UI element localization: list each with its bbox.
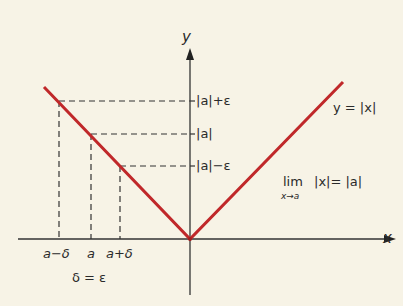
curve-label: y = |x| [333,100,376,115]
x-tick-label-left: a−δ [43,246,70,261]
delta-relation: δ = ε [72,270,106,285]
x-tick-label-right: a+δ [106,246,133,261]
y-tick-label-lower: |a|−ε [196,158,231,173]
origin-point [188,237,192,241]
abs-curve [44,82,343,239]
x-axis-label: x [383,229,392,247]
limit-expression: |x|= |a| [314,174,362,189]
y-tick-label-mid: |a| [196,126,213,141]
limit-lim: lim [283,174,303,189]
limit-subscript: x→a [281,191,299,201]
y-axis-arrow-icon [186,48,194,60]
x-tick-label-mid: a [87,246,95,261]
y-tick-label-upper: |a|+ε [196,93,231,108]
y-axis-label: y [182,28,191,46]
